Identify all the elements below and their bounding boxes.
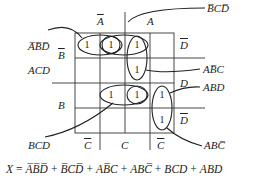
col-label-a: A [147, 16, 154, 27]
cell-r0-c0: 1 [80, 40, 94, 50]
equation-equals: = [16, 163, 23, 175]
equation-plus: + [190, 163, 197, 175]
term-label-acd: ACD [28, 65, 50, 76]
equation-plus: + [86, 163, 93, 175]
equation-plus: + [51, 163, 58, 175]
col-label-a-bar: A [97, 16, 104, 27]
col-label-c: C [121, 140, 128, 151]
equation-term-4: ABC̅ [130, 163, 152, 175]
cell-r0-c1: 1 [104, 40, 118, 50]
term-label-abd-bar: A̅B̅D̅ [28, 41, 49, 52]
row-label-d: D [180, 78, 188, 89]
term-label-ab-bar-c: AB̅C [203, 64, 224, 75]
cell-r2-c3: 1 [155, 90, 169, 100]
cell-r0-c2: 1 [130, 40, 144, 50]
equation-term-3: AB̅C [96, 163, 118, 175]
row-label-d-bar-bottom: D [180, 115, 188, 126]
equation-term-6: ABD [200, 163, 222, 175]
cell-r3-c3: 1 [155, 115, 169, 125]
cell-r2-c1: 1 [104, 90, 118, 100]
row-label-d-bar-top: D [180, 40, 188, 51]
col-label-c-bar-left: C [84, 140, 91, 151]
equation-plus: + [155, 163, 162, 175]
col-label-c-bar-right: C [157, 140, 164, 151]
equation-term-5: BCD [164, 163, 187, 175]
term-label-abc-bar: ABC̅ [204, 140, 225, 151]
equation-lhs: X [6, 163, 13, 175]
cell-r2-c2: 1 [130, 90, 144, 100]
row-label-b: B [58, 100, 65, 111]
term-label-abd: ABD [203, 82, 224, 93]
equation-term-1: A̅B̅D̅ [26, 163, 48, 175]
cell-r1-c2: 1 [130, 65, 144, 75]
row-label-b-bar: B [58, 50, 65, 61]
boolean-equation: X=A̅B̅D̅+B̅CD̅+AB̅C+ABC̅+BCD+ABD [6, 163, 222, 175]
equation-plus: + [121, 163, 128, 175]
equation-term-2: B̅CD̅ [60, 163, 83, 175]
karnaugh-map: 1 1 1 1 1 1 1 1 A A C C C B B D D D A̅B̅… [0, 0, 263, 188]
term-label-bcd-bar: B̅CD̅ [207, 3, 229, 14]
term-label-bcd: BCD [28, 140, 50, 151]
